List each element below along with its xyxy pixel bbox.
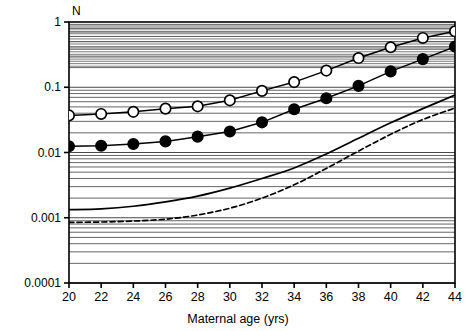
y-tick-label: 1 [54, 16, 61, 28]
x-tick-label: 44 [435, 291, 475, 304]
data-point-marker [225, 95, 235, 105]
data-point-marker [128, 139, 138, 149]
data-point-marker [353, 53, 363, 63]
data-point-marker [321, 93, 331, 103]
plot-canvas [0, 0, 476, 331]
data-point-marker [257, 86, 267, 96]
data-point-marker [225, 126, 235, 136]
data-point-marker [289, 104, 299, 114]
y-tick-label: 0.0001 [24, 277, 61, 289]
data-point-marker [353, 81, 363, 91]
data-point-marker [450, 26, 460, 36]
data-point-marker [192, 101, 202, 111]
data-point-marker [450, 41, 460, 51]
data-point-marker [385, 42, 395, 52]
y-tick-label: 0.1 [44, 81, 61, 93]
data-point-marker [289, 77, 299, 87]
data-point-marker [160, 103, 170, 113]
y-tick-label: 0.001 [31, 212, 61, 224]
x-axis-title: Maternal age (yrs) [0, 312, 476, 326]
data-point-marker [257, 117, 267, 127]
data-point-marker [64, 110, 74, 120]
data-point-marker [418, 33, 428, 43]
data-point-marker [96, 141, 106, 151]
chart-figure: N Maternal age (yrs) 10.10.010.0010.0001… [0, 0, 476, 331]
y-tick-label: 0.01 [38, 147, 61, 159]
series-open-circle-series [64, 26, 460, 121]
data-point-marker [128, 107, 138, 117]
data-point-marker [385, 66, 395, 76]
gridlines-group [69, 24, 455, 283]
data-point-marker [160, 136, 170, 146]
data-point-marker [321, 65, 331, 75]
data-point-marker [192, 131, 202, 141]
data-point-marker [418, 54, 428, 64]
data-point-marker [96, 109, 106, 119]
data-point-marker [64, 141, 74, 151]
tick-marks-group [64, 22, 455, 288]
